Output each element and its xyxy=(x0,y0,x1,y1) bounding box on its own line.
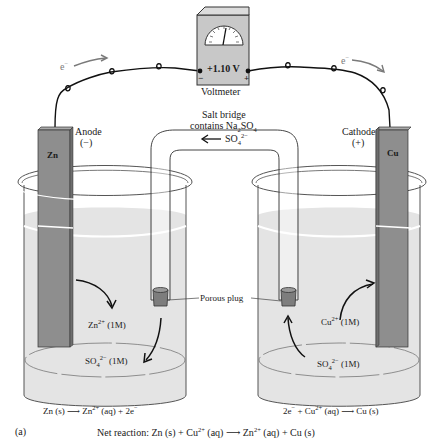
anode-half-reaction: Zn (s) ⟶ Zn2+ (aq) + 2e− xyxy=(43,404,138,416)
anode-title: Anode xyxy=(75,126,102,137)
sulfate-flow-arrow xyxy=(202,135,221,143)
voltmeter-label: Voltmeter xyxy=(201,86,240,97)
cathode-anion-label: SO42− (1M) xyxy=(317,357,359,371)
cathode-title: Cathode xyxy=(342,126,375,137)
net-reaction: Net reaction: Zn (s) + Cu2+ (aq) ⟶ Zn2+ … xyxy=(97,426,315,438)
copper-electrode xyxy=(376,127,411,347)
anode-anion-label: SO42− (1M) xyxy=(85,354,127,368)
anode-cation-label: Zn2+ (1M) xyxy=(88,318,126,330)
cathode-half-reaction: 2e− + Cu2+ (aq) ⟶ Cu (s) xyxy=(283,404,379,416)
figure-label: (a) xyxy=(15,426,26,437)
porous-plug-left xyxy=(153,288,168,307)
zinc-electrode xyxy=(38,127,73,347)
porous-plug-label: Porous plug xyxy=(200,293,243,303)
electron-flow-arrow-left xyxy=(74,55,107,66)
electron-flow-arrow-right xyxy=(352,60,384,72)
cathode-cation-label: Cu2+ (1M) xyxy=(321,315,359,327)
anode-sign: (−) xyxy=(80,137,92,148)
voltmeter-negative-terminal: − xyxy=(198,73,203,83)
zinc-electrode-label: Zn xyxy=(47,150,58,160)
electron-label-left: e− xyxy=(60,60,68,72)
cathode-sign: (+) xyxy=(352,137,364,148)
galvanic-cell-diagram: e− e− +1.10 V − + Voltmeter Salt bridge … xyxy=(0,0,444,447)
salt-bridge-ion: SO42− xyxy=(225,132,248,146)
copper-electrode-label: Cu xyxy=(387,148,399,158)
electron-label-right: e− xyxy=(341,54,349,66)
porous-plug-right xyxy=(281,288,296,307)
voltmeter-reading: +1.10 V xyxy=(207,63,240,74)
voltmeter-positive-terminal: + xyxy=(244,73,249,83)
salt-bridge-title: Salt bridge xyxy=(202,109,246,120)
